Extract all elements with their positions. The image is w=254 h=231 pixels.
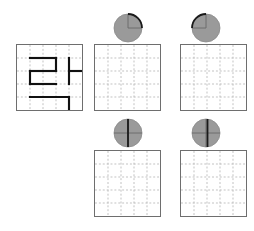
grid-border <box>94 150 161 217</box>
rotation-marker-vertical-right[interactable] <box>112 117 144 149</box>
grid-border <box>180 44 247 111</box>
grid-dashed-lines <box>95 45 160 110</box>
answer-grid-4[interactable] <box>180 150 247 217</box>
answer-grid-3[interactable] <box>94 150 161 217</box>
grid-dashed-lines <box>95 151 160 216</box>
rotation-marker-upper-left[interactable] <box>190 12 222 44</box>
rotation-marker-upper-right[interactable] <box>112 12 144 44</box>
grid-border <box>16 44 83 111</box>
rotation-marker-vertical-left[interactable] <box>190 117 222 149</box>
rotation-dial-icon <box>112 12 144 44</box>
answer-grid-1[interactable] <box>94 44 161 111</box>
polyline-figure <box>17 45 82 110</box>
rotation-dial-icon <box>190 12 222 44</box>
rotation-dial-icon <box>190 117 222 149</box>
grid-border <box>94 44 161 111</box>
rotation-dial-icon <box>112 117 144 149</box>
answer-grid-2[interactable] <box>180 44 247 111</box>
source-grid[interactable] <box>16 44 83 111</box>
grid-dashed-lines <box>181 45 246 110</box>
grid-border <box>180 150 247 217</box>
grid-dashed-lines <box>181 151 246 216</box>
puzzle-canvas <box>0 0 254 231</box>
